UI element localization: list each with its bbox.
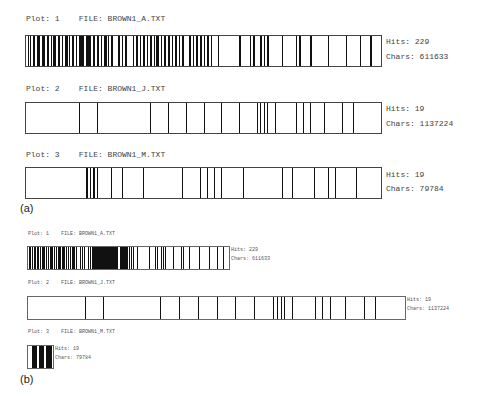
hit-marker <box>172 36 174 66</box>
hit-marker <box>356 168 357 198</box>
plot-a1-dispersion <box>25 35 382 67</box>
hit-marker <box>102 247 103 269</box>
hit-marker <box>296 36 298 66</box>
hit-marker <box>281 297 282 319</box>
hit-marker <box>209 247 210 269</box>
plot-a3-hits: Hits: 19 <box>386 170 424 179</box>
hit-marker <box>223 247 224 269</box>
hit-marker <box>74 247 75 269</box>
hit-marker <box>137 247 138 269</box>
hit-marker <box>217 247 218 269</box>
hit-marker <box>155 247 156 269</box>
hit-marker <box>32 247 33 269</box>
plot-b1-dispersion <box>27 246 230 270</box>
hit-marker <box>98 247 99 269</box>
hit-marker <box>277 297 278 319</box>
hit-marker <box>328 168 329 198</box>
hit-marker <box>133 36 135 66</box>
hit-marker <box>260 103 261 133</box>
plot-b2-chars: Chars: 1137224 <box>407 306 449 312</box>
hit-marker <box>183 247 184 269</box>
hit-marker <box>315 297 316 319</box>
plot-a1-hits: Hits: 229 <box>386 37 429 46</box>
hit-marker <box>221 168 222 198</box>
hit-marker <box>40 247 41 269</box>
hit-marker <box>175 36 177 66</box>
hit-marker <box>30 247 31 269</box>
hit-marker <box>30 36 32 66</box>
plot-a2-hits: Hits: 19 <box>386 104 424 113</box>
plot-a1-title: Plot: 1 FILE: BROWN1_A.TXT <box>26 14 165 23</box>
hit-marker <box>204 103 205 133</box>
hit-marker <box>97 36 99 66</box>
hit-marker <box>161 36 163 66</box>
hit-marker <box>88 247 89 269</box>
hit-marker <box>80 247 81 269</box>
hit-marker <box>267 36 269 66</box>
hit-marker <box>314 168 315 198</box>
hit-marker <box>292 297 293 319</box>
hit-marker <box>122 36 124 66</box>
hit-marker <box>160 297 161 319</box>
plot-b3-dispersion <box>27 345 54 369</box>
hit-marker <box>79 103 80 133</box>
hit-marker <box>103 297 104 319</box>
hit-marker <box>104 247 105 269</box>
hit-marker <box>264 36 266 66</box>
hit-marker <box>165 247 166 269</box>
hit-marker <box>44 36 46 66</box>
hit-marker <box>62 36 64 66</box>
hit-marker <box>72 36 74 66</box>
hit-marker <box>257 103 258 133</box>
hit-marker <box>33 36 35 66</box>
hit-marker <box>346 36 348 66</box>
hit-marker <box>143 36 145 66</box>
hit-marker <box>136 36 138 66</box>
hit-marker <box>82 247 83 269</box>
hit-marker <box>239 36 241 66</box>
hit-marker <box>60 247 61 269</box>
hit-marker <box>111 168 112 198</box>
hit-marker <box>303 103 304 133</box>
hit-marker <box>90 247 91 269</box>
hit-marker <box>43 346 44 368</box>
hit-marker <box>310 36 312 66</box>
hit-marker <box>108 247 109 269</box>
hit-marker <box>200 36 202 66</box>
plot-a2-dispersion <box>25 102 382 134</box>
hit-marker <box>193 36 195 66</box>
hit-marker <box>182 168 183 198</box>
hit-marker <box>64 247 65 269</box>
hit-marker <box>254 297 255 319</box>
hit-marker <box>345 297 346 319</box>
hit-marker <box>253 36 255 66</box>
plot-b1-hits: Hits: 229 <box>231 247 258 253</box>
hit-marker <box>126 247 127 269</box>
hit-marker <box>189 247 190 269</box>
plot-b2-hits: Hits: 19 <box>407 297 431 303</box>
hit-marker <box>330 297 331 319</box>
hit-marker <box>47 36 49 66</box>
hit-marker <box>168 36 170 66</box>
hit-marker <box>83 36 85 66</box>
hit-marker <box>70 247 71 269</box>
hit-marker <box>93 168 94 198</box>
hit-marker <box>196 36 198 66</box>
hit-marker <box>68 247 69 269</box>
hit-marker <box>310 103 311 133</box>
hit-marker <box>173 247 174 269</box>
hit-marker <box>273 297 274 319</box>
hit-marker <box>204 36 206 66</box>
hit-marker <box>122 168 123 198</box>
plot-a3-dispersion <box>25 167 382 199</box>
hit-marker <box>168 103 169 133</box>
hit-marker <box>353 103 354 133</box>
hit-marker <box>260 36 262 66</box>
hit-marker <box>84 247 85 269</box>
hit-marker <box>364 297 365 319</box>
hit-marker <box>211 36 213 66</box>
hit-marker <box>218 36 220 66</box>
hit-marker <box>370 36 372 66</box>
hit-marker <box>118 36 120 66</box>
hit-marker <box>275 103 276 133</box>
